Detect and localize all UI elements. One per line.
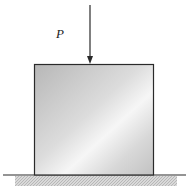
ground — [3, 175, 186, 186]
load-arrow-icon — [87, 5, 93, 64]
ground-hatch — [15, 176, 177, 186]
block — [35, 65, 154, 176]
diagram-canvas: P — [0, 0, 192, 191]
load-label: P — [55, 26, 64, 41]
